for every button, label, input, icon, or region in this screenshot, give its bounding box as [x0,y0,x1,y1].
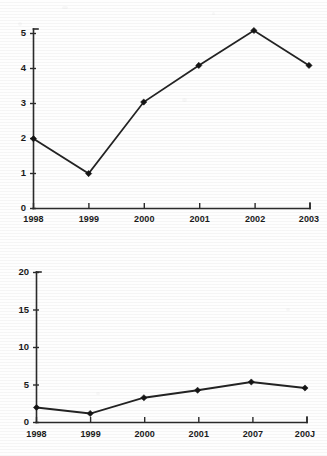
x-tick-label-top-2000: 2000 [134,214,154,224]
y-tick-label-bottom-10: 10 [18,341,29,352]
y-tick-label-top-2: 2 [21,132,26,143]
y-tick-label-bottom-15: 15 [18,304,29,315]
data-point-marker [195,387,201,393]
series-line-bottom [37,382,306,414]
x-tick-label-top-1998: 1998 [23,214,43,224]
x-tick-label-bottom-2001: 2001 [189,429,209,439]
y-tick-label-top-5: 5 [21,27,27,38]
y-tick-label-top-3: 3 [21,97,26,108]
scanned-chart-page: 0 1 2 3 4 5 1998 1999 2000 2001 2002 200… [0,0,327,456]
data-point-marker [33,404,39,410]
series-markers-top [30,27,312,176]
line-chart-bottom: 0 5 10 15 20 1998 1999 2000 2001 2007 20… [0,232,327,456]
x-tick-label-bottom-2000: 2000 [134,429,154,439]
data-point-marker [302,385,308,391]
x-tick-marks-bottom [37,417,308,423]
y-tick-label-top-0: 0 [21,202,26,213]
data-point-marker [87,410,93,416]
x-tick-label-bottom-2003: 200J [295,429,315,439]
x-tick-label-bottom-1999: 1999 [80,429,100,439]
x-tick-marks-top [34,203,311,209]
y-tick-label-bottom-0: 0 [24,416,29,427]
data-point-marker [141,395,147,401]
x-tick-label-top-2003: 2003 [299,214,319,224]
series-line-top [34,31,310,174]
x-tick-label-top-1999: 1999 [79,214,99,224]
y-tick-label-bottom-5: 5 [24,379,30,390]
x-tick-label-top-2001: 2001 [189,214,209,224]
chart-top-canvas: 0 1 2 3 4 5 1998 1999 2000 2001 2002 200… [0,0,327,232]
x-tick-label-bottom-2002: 2007 [243,429,263,439]
y-tick-label-top-4: 4 [21,62,27,73]
y-tick-label-bottom-20: 20 [18,266,29,277]
x-tick-label-top-2002: 2002 [245,214,265,224]
data-point-marker [248,379,254,385]
y-tick-label-top-1: 1 [21,167,27,178]
chart-bottom-canvas: 0 5 10 15 20 1998 1999 2000 2001 2007 20… [0,232,327,456]
x-tick-label-bottom-1998: 1998 [26,429,46,439]
line-chart-top: 0 1 2 3 4 5 1998 1999 2000 2001 2002 200… [0,0,327,232]
